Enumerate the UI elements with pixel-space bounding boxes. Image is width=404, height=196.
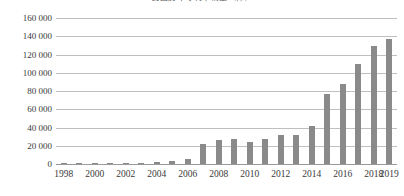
x-axis-label: 2002 [116, 168, 135, 180]
x-axis-label: 2019 [380, 168, 399, 180]
bar[interactable] [231, 139, 237, 164]
x-axis: 1998200020022004200620082010201220142016… [56, 168, 397, 182]
bar-slot [258, 18, 274, 164]
bar-slot [211, 18, 227, 164]
bar[interactable] [154, 162, 160, 164]
bar-chart: 我国历年专利申请量（件） 020 00040 00060 00080 00010… [0, 0, 404, 196]
bar-slot [87, 18, 103, 164]
bar-slot [304, 18, 320, 164]
bar[interactable] [107, 163, 113, 164]
bar[interactable] [92, 163, 98, 164]
y-axis-label: 60 000 [27, 105, 52, 114]
bar-slot [335, 18, 351, 164]
bar-slot [242, 18, 258, 164]
bar-series [56, 18, 397, 164]
bar[interactable] [309, 126, 315, 164]
bar-slot [382, 18, 398, 164]
x-axis-label: 2016 [333, 168, 352, 180]
bar-slot [366, 18, 382, 164]
bar[interactable] [340, 84, 346, 164]
y-axis-label: 120 000 [23, 50, 52, 59]
x-tick-slot: 2006 [180, 168, 196, 182]
bar[interactable] [123, 163, 129, 164]
bar-slot [320, 18, 336, 164]
bar-slot [134, 18, 150, 164]
chart-title: 我国历年专利申请量（件） [0, 0, 404, 2]
x-tick-slot: 2012 [273, 168, 289, 182]
x-axis-label: 2014 [302, 168, 321, 180]
y-axis-label: 160 000 [23, 14, 52, 23]
bar-slot [103, 18, 119, 164]
bar-slot [72, 18, 88, 164]
y-axis-label: 20 000 [27, 141, 52, 150]
x-axis-label: 2008 [209, 168, 228, 180]
bar-slot [56, 18, 72, 164]
y-axis-label: 0 [48, 160, 53, 169]
x-tick-slot: 2014 [304, 168, 320, 182]
bar[interactable] [61, 163, 67, 164]
bar-slot [351, 18, 367, 164]
bar[interactable] [355, 64, 361, 164]
x-tick-slot: 1998 [56, 168, 72, 182]
bar-slot [227, 18, 243, 164]
x-tick-slot: 2000 [87, 168, 103, 182]
x-axis-label: 2012 [271, 168, 290, 180]
x-tick-slot: 2016 [335, 168, 351, 182]
bar[interactable] [138, 163, 144, 164]
bar-slot [196, 18, 212, 164]
bar[interactable] [216, 140, 222, 164]
bar-slot [273, 18, 289, 164]
x-axis-label: 1998 [54, 168, 73, 180]
x-tick-slot: 2004 [149, 168, 165, 182]
x-axis-label: 2000 [85, 168, 104, 180]
x-tick-slot: 2010 [242, 168, 258, 182]
y-axis-label: 40 000 [27, 123, 52, 132]
bar-slot [118, 18, 134, 164]
bar[interactable] [185, 159, 191, 164]
bar[interactable] [293, 135, 299, 164]
x-tick-slot: 2019 [382, 168, 398, 182]
bar[interactable] [200, 144, 206, 164]
bar[interactable] [76, 163, 82, 164]
bar[interactable] [262, 139, 268, 164]
bar[interactable] [169, 161, 175, 164]
y-axis-label: 140 000 [23, 32, 52, 41]
bar[interactable] [371, 46, 377, 164]
plot-area [56, 18, 397, 164]
bar-slot [289, 18, 305, 164]
y-axis: 020 00040 00060 00080 000100 000120 0001… [0, 18, 52, 164]
bar-slot [149, 18, 165, 164]
y-axis-label: 100 000 [23, 68, 52, 77]
x-axis-label: 2004 [147, 168, 166, 180]
x-tick-slot: 2008 [211, 168, 227, 182]
bar-slot [165, 18, 181, 164]
x-tick-slot: 2002 [118, 168, 134, 182]
bar[interactable] [324, 94, 330, 164]
axis-baseline [56, 164, 397, 165]
bar[interactable] [247, 142, 253, 164]
x-axis-label: 2010 [240, 168, 259, 180]
bar[interactable] [278, 135, 284, 164]
y-axis-label: 80 000 [27, 87, 52, 96]
bar-slot [180, 18, 196, 164]
x-axis-label: 2006 [178, 168, 197, 180]
bar[interactable] [386, 39, 392, 164]
